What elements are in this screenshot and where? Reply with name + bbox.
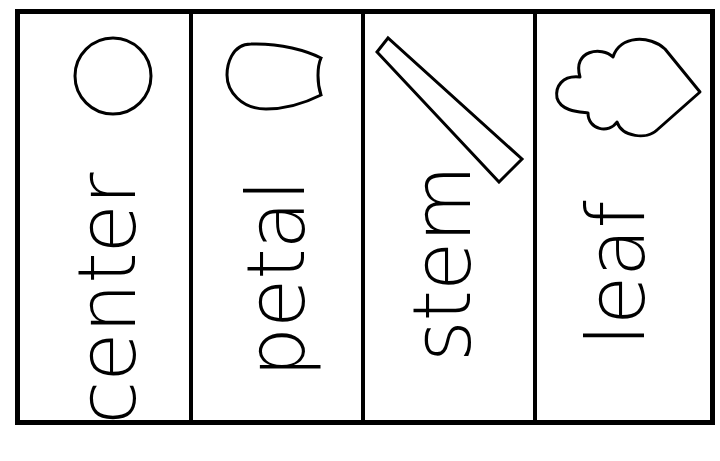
- label-petal: petal: [237, 180, 317, 378]
- label-center: center: [68, 173, 148, 424]
- leaf-icon: [547, 32, 707, 142]
- stem-icon: [367, 24, 527, 184]
- petal-icon: [221, 31, 341, 121]
- panel-stem: stem: [365, 14, 537, 420]
- label-stem: stem: [403, 166, 483, 362]
- label-leaf: leaf: [577, 202, 657, 347]
- circle-icon: [68, 31, 158, 121]
- flower-parts-sheet: center petal stem leaf: [15, 9, 715, 425]
- panel-center: center: [20, 14, 193, 420]
- panel-leaf: leaf: [537, 14, 710, 420]
- panel-petal: petal: [193, 14, 365, 420]
